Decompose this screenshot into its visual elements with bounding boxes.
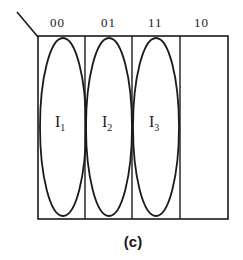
corner-diagonal bbox=[17, 12, 38, 37]
column-label-10: 10 bbox=[194, 15, 209, 31]
column-label-00: 00 bbox=[50, 15, 65, 31]
implicant-index: 2 bbox=[107, 122, 112, 133]
implicant-index: 1 bbox=[60, 122, 65, 133]
column-label-01: 01 bbox=[101, 15, 116, 31]
implicant-index: 3 bbox=[154, 122, 159, 133]
implicant-label-3: I3 bbox=[149, 113, 159, 133]
implicant-label-2: I2 bbox=[102, 113, 112, 133]
column-label-11: 11 bbox=[148, 15, 163, 31]
figure-caption: (c) bbox=[0, 233, 243, 250]
kmap-graphic bbox=[0, 0, 243, 260]
implicant-label-1: I1 bbox=[55, 113, 65, 133]
